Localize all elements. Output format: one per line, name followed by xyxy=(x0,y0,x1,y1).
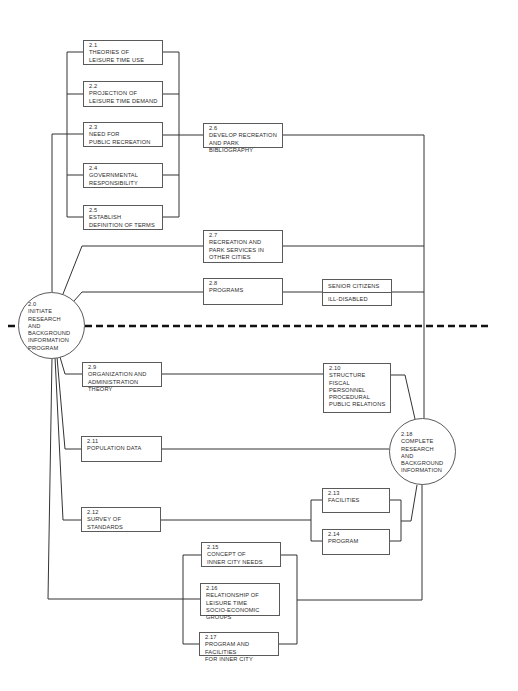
node-label: PROGRAM xyxy=(328,538,385,545)
node-2-15: 2.15 CONCEPT OF INNER CITY NEEDS xyxy=(201,542,281,567)
node-label: CONCEPT OF INNER CITY NEEDS xyxy=(207,551,276,566)
node-2-0-initiate-research: 2.0 INITIATE RESEARCH AND BACKGROUND INF… xyxy=(18,292,85,359)
node-2-3: 2.3 NEED FOR PUBLIC RECREATION xyxy=(83,122,163,147)
node-label: ORGANIZATION AND ADMINISTRATION THEORY xyxy=(88,371,157,393)
node-2-8: 2.8 PROGRAMS xyxy=(203,278,283,305)
node-label: SURVEY OF STANDARDS xyxy=(87,516,156,531)
node-label: THEORIES OF LEISURE TIME USE xyxy=(89,49,158,64)
node-number: 2.6 xyxy=(209,125,278,132)
node-label: ESTABLISH DEFINITION OF TERMS xyxy=(89,214,158,229)
node-number: 2.5 xyxy=(89,207,158,214)
node-2-9: 2.9 ORGANIZATION AND ADMINISTRATION THEO… xyxy=(82,362,162,387)
node-label: RELATIONSHIP OF LEISURE TIME SOCIO-ECONO… xyxy=(206,592,275,621)
node-2-11: 2.11 POPULATION DATA xyxy=(81,436,162,462)
node-2-10: 2.10 STRUCTURE FISCAL PERSONNEL PROCEDUR… xyxy=(323,363,391,413)
node-2-1: 2.1 THEORIES OF LEISURE TIME USE xyxy=(83,40,163,65)
node-2-18-complete-research: 2.18 COMPLETE RESEARCH AND BACKGROUND IN… xyxy=(389,418,456,485)
node-number: 2.10 xyxy=(329,365,386,372)
node-2-7: 2.7 RECREATION AND PARK SERVICES IN OTHE… xyxy=(203,230,283,263)
node-number: 2.1 xyxy=(89,42,158,49)
node-2-12: 2.12 SURVEY OF STANDARDS xyxy=(81,507,161,532)
node-2-4: 2.4 GOVERNMENTAL RESPONSIBILITY xyxy=(83,163,163,188)
node-number: 2.8 xyxy=(209,280,278,287)
node-number: 2.14 xyxy=(328,531,385,538)
node-2-17: 2.17 PROGRAM AND FACILITIES FOR INNER CI… xyxy=(199,632,279,656)
program-group-senior-citizens: SENIOR CITIZENS xyxy=(323,280,391,293)
program-group-ill-disabled: ILL-DISABLED xyxy=(323,293,391,306)
node-number: 2.17 xyxy=(205,634,274,641)
node-2-5: 2.5 ESTABLISH DEFINITION OF TERMS xyxy=(83,205,163,230)
node-number: 2.3 xyxy=(89,124,158,131)
node-label: INITIATE RESEARCH AND BACKGROUND INFORMA… xyxy=(28,308,84,352)
node-number: 2.11 xyxy=(87,438,157,445)
node-number: 2.16 xyxy=(206,585,275,592)
node-label: GOVERNMENTAL RESPONSIBILITY xyxy=(89,172,158,187)
node-number: 2.9 xyxy=(88,364,157,371)
node-number: 2.2 xyxy=(89,83,158,90)
node-label: COMPLETE RESEARCH AND BACKGROUND INFORMA… xyxy=(401,438,455,474)
program-groups-box: SENIOR CITIZENS ILL-DISABLED xyxy=(322,279,392,306)
node-label: DEVELOP RECREATION AND PARK BIBLIOGRAPHY xyxy=(209,132,278,154)
node-number: 2.7 xyxy=(209,232,278,239)
node-number: 2.12 xyxy=(87,509,156,516)
node-number: 2.15 xyxy=(207,544,276,551)
node-2-16: 2.16 RELATIONSHIP OF LEISURE TIME SOCIO-… xyxy=(200,583,280,616)
node-label: RECREATION AND PARK SERVICES IN OTHER CI… xyxy=(209,239,278,261)
node-2-14: 2.14 PROGRAM xyxy=(322,529,390,555)
node-number: 2.4 xyxy=(89,165,158,172)
node-2-6: 2.6 DEVELOP RECREATION AND PARK BIBLIOGR… xyxy=(203,123,283,148)
node-label: STRUCTURE FISCAL PERSONNEL PROCEDURAL PU… xyxy=(329,372,386,408)
node-number: 2.18 xyxy=(401,431,455,438)
node-2-13: 2.13 FACILITIES xyxy=(322,488,390,513)
node-number: 2.0 xyxy=(28,301,84,308)
node-label: FACILITIES xyxy=(328,497,385,504)
node-label: PROJECTION OF LEISURE TIME DEMAND xyxy=(89,90,158,105)
node-number: 2.13 xyxy=(328,490,385,497)
node-label: NEED FOR PUBLIC RECREATION xyxy=(89,131,158,146)
node-2-2: 2.2 PROJECTION OF LEISURE TIME DEMAND xyxy=(83,81,163,107)
node-label: PROGRAM AND FACILITIES FOR INNER CITY xyxy=(205,641,274,663)
node-label: PROGRAMS xyxy=(209,287,278,294)
node-label: POPULATION DATA xyxy=(87,445,157,452)
